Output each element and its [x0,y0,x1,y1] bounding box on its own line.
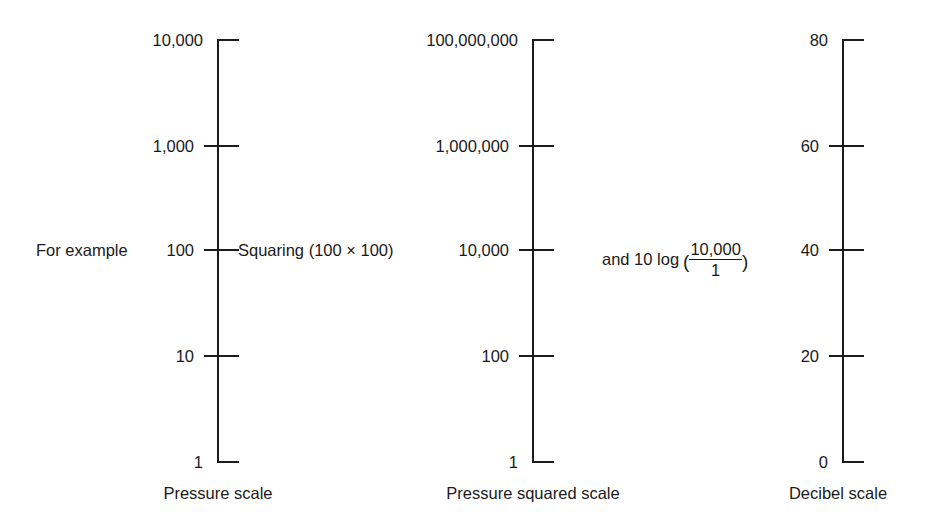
decibel-tick-label-20: 20 [735,348,819,365]
decibel-tick-label-0: 0 [744,454,828,471]
decibel-scale-caption: Decibel scale [748,484,928,502]
annotation-ten-log-text: and 10 log [602,250,679,268]
decibel-tick-0 [842,461,864,463]
decibel-scale-group: 80 60 40 20 0 Decibel scale [0,0,936,527]
log-ratio-fraction: 10,000 1 [689,241,741,279]
fraction-close-paren: ) [742,251,748,272]
decibel-axis-line [842,40,844,463]
decibel-tick-80 [842,39,864,41]
decibel-tick-40 [829,249,864,251]
decibel-tick-60 [829,145,864,147]
annotation-ten-log: and 10 log( 10,000 1 ) [602,242,748,280]
fraction-numerator: 10,000 [689,241,741,260]
decibel-tick-label-60: 60 [735,138,819,155]
scale-comparison-figure: 10,000 1,000 100 10 1 Pressure scale 100… [0,0,936,527]
decibel-tick-label-80: 80 [744,32,828,49]
annotation-squaring: Squaring (100 × 100) [238,242,394,259]
decibel-tick-20 [829,355,864,357]
fraction-denominator: 1 [689,260,741,279]
annotation-for-example: For example [36,242,128,259]
